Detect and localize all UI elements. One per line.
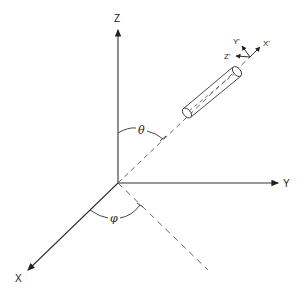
theta-label: θ <box>138 124 145 137</box>
y-prime-label: Y' <box>233 37 240 46</box>
x-axis-label: X <box>15 273 22 284</box>
radial-dashed-line <box>118 55 252 183</box>
theta-arc <box>118 128 136 133</box>
body-frame: X' Y' Z' <box>224 37 270 61</box>
projection-dashed-line <box>118 183 208 270</box>
x-axis <box>28 183 118 270</box>
z-prime-axis <box>236 56 250 57</box>
x-prime-label: X' <box>263 39 270 48</box>
y-axis-label: Y <box>283 178 290 189</box>
phi-arc <box>90 210 108 218</box>
phi-label: φ <box>110 212 118 225</box>
cylinder-body <box>181 65 244 120</box>
coordinate-diagram: Z Y X θ φ X' Y' Z' <box>0 0 304 293</box>
phi-arc-right <box>120 205 140 218</box>
y-prime-axis <box>242 46 250 57</box>
x-prime-axis <box>250 47 260 57</box>
phi-tick <box>137 203 143 207</box>
z-prime-label: Z' <box>224 52 231 61</box>
theta-arc-right <box>147 131 163 139</box>
z-axis-label: Z <box>114 13 120 24</box>
